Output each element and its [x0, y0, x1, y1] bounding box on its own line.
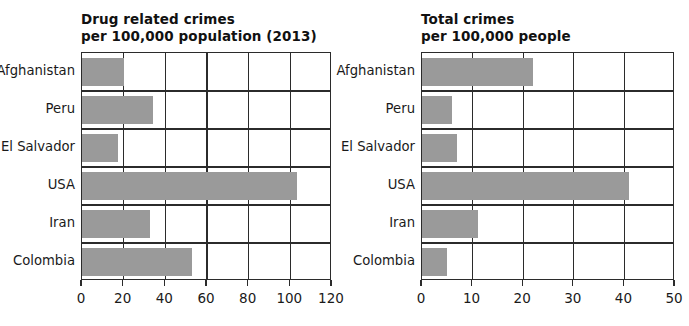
category-label: Afghanistan	[336, 64, 415, 78]
x-axis-tick	[673, 280, 674, 286]
bar	[422, 172, 629, 199]
value-gridline	[624, 53, 625, 279]
value-gridline	[290, 53, 291, 279]
category-label: Peru	[386, 102, 415, 116]
category-axis-right: AfghanistanPeruEl SalvadorUSAIranColombi…	[337, 52, 415, 280]
x-axis-tick	[330, 280, 331, 286]
bar	[422, 210, 478, 237]
value-gridline	[165, 53, 166, 279]
x-axis-label: 40	[156, 291, 173, 306]
x-axis-tick	[205, 280, 206, 286]
chart-title-right: Total crimes per 100,000 people	[421, 11, 571, 45]
value-gridline	[523, 53, 524, 279]
value-gridline	[206, 53, 207, 279]
chart-panel-total-crimes: Total crimes per 100,000 people Afghanis…	[345, 0, 689, 326]
row-gridline	[422, 128, 673, 129]
chart-title-line1: Drug related crimes	[81, 11, 235, 27]
value-gridline	[123, 53, 124, 279]
x-axis-label: 20	[514, 291, 531, 306]
x-axis-label: 100	[276, 291, 302, 306]
row-gridline	[422, 90, 673, 91]
bar	[422, 96, 452, 123]
bar	[82, 248, 192, 275]
x-axis-label: 60	[197, 291, 214, 306]
category-label: El Salvador	[1, 140, 75, 154]
category-label: USA	[48, 178, 75, 192]
chart-subtitle-line2: per 100,000 population (2013)	[81, 28, 317, 45]
x-axis-label: 0	[417, 291, 426, 306]
x-axis-tick	[289, 280, 290, 286]
row-gridline	[422, 204, 673, 205]
value-gridline	[573, 53, 574, 279]
bar	[82, 172, 297, 199]
category-label: USA	[388, 178, 415, 192]
x-axis-tick	[623, 280, 624, 286]
category-label: El Salvador	[341, 140, 415, 154]
category-label: Iran	[389, 216, 415, 230]
chart-title-line1: Total crimes	[421, 11, 514, 27]
x-axis-tick	[572, 280, 573, 286]
bar	[422, 58, 533, 85]
x-axis-label: 40	[615, 291, 632, 306]
bar	[82, 210, 150, 237]
x-axis-label: 80	[239, 291, 256, 306]
value-gridline	[472, 53, 473, 279]
row-gridline	[422, 166, 673, 167]
row-gridline	[422, 242, 673, 243]
category-label: Afghanistan	[0, 64, 75, 78]
bar	[82, 96, 153, 123]
category-axis-left: AfghanistanPeruEl SalvadorUSAIranColombi…	[0, 52, 75, 280]
bar	[82, 58, 124, 85]
x-axis-label: 120	[318, 291, 344, 306]
chart-title-left: Drug related crimes per 100,000 populati…	[81, 11, 317, 45]
plot-area-left	[81, 52, 331, 280]
bar	[82, 134, 118, 161]
x-axis-tick	[420, 280, 421, 286]
x-axis-label: 50	[665, 291, 682, 306]
chart-page: Drug related crimes per 100,000 populati…	[0, 0, 689, 326]
x-axis-tick	[80, 280, 81, 286]
plot-area-right	[421, 52, 674, 280]
x-axis-label: 0	[77, 291, 86, 306]
value-gridline	[248, 53, 249, 279]
chart-subtitle-line2: per 100,000 people	[421, 28, 571, 45]
bar	[422, 248, 447, 275]
x-axis-tick	[122, 280, 123, 286]
x-axis-label: 10	[463, 291, 480, 306]
x-axis-tick	[522, 280, 523, 286]
x-axis-tick	[247, 280, 248, 286]
category-label: Iran	[49, 216, 75, 230]
bar	[422, 134, 457, 161]
chart-panel-drug-related-crimes: Drug related crimes per 100,000 populati…	[0, 0, 345, 326]
category-label: Peru	[46, 102, 75, 116]
category-label: Colombia	[13, 254, 75, 268]
x-axis-tick	[471, 280, 472, 286]
x-axis-label: 20	[114, 291, 131, 306]
category-label: Colombia	[353, 254, 415, 268]
x-axis-tick	[164, 280, 165, 286]
x-axis-label: 30	[564, 291, 581, 306]
